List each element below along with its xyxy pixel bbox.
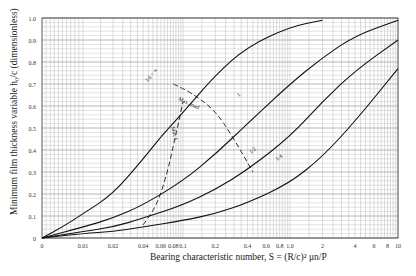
y-axis-label-fraction: h₀/c xyxy=(9,71,19,86)
svg-text:0.2: 0.2 xyxy=(29,192,37,198)
svg-text:10: 10 xyxy=(395,243,401,249)
curve-annotations: l/d = ∞11/21/4Max. loadMin. f xyxy=(144,67,283,162)
svg-text:0.8: 0.8 xyxy=(29,60,37,66)
svg-text:l/d = ∞: l/d = ∞ xyxy=(144,67,159,83)
y-axis-label-main: Minimum film thickness variable xyxy=(9,88,19,215)
y-axis-label: Minimum film thickness variable h₀/c (di… xyxy=(9,35,23,215)
film-thickness-chart: 00.10.20.30.40.50.60.70.80.91.0 00.010.0… xyxy=(0,0,416,276)
svg-text:Max. load: Max. load xyxy=(178,95,201,110)
curves xyxy=(42,20,398,238)
svg-text:1.0: 1.0 xyxy=(29,16,37,22)
svg-text:0.5: 0.5 xyxy=(29,126,37,132)
svg-text:0.04: 0.04 xyxy=(138,243,149,249)
svg-text:6: 6 xyxy=(373,243,376,249)
svg-text:4: 4 xyxy=(354,243,357,249)
svg-text:0.08: 0.08 xyxy=(168,243,179,249)
curve-l-d-1-4 xyxy=(42,69,398,238)
svg-text:0.6: 0.6 xyxy=(263,243,271,249)
svg-text:2: 2 xyxy=(321,243,324,249)
svg-text:0.2: 0.2 xyxy=(211,243,219,249)
svg-text:0.06: 0.06 xyxy=(156,243,167,249)
svg-text:0: 0 xyxy=(33,236,36,242)
svg-text:1/4: 1/4 xyxy=(274,153,283,162)
svg-text:0: 0 xyxy=(41,243,44,249)
svg-text:0.02: 0.02 xyxy=(108,243,119,249)
svg-text:8: 8 xyxy=(386,243,389,249)
x-axis-label: Bearing characteristic number, S = (R/c)… xyxy=(150,252,327,262)
svg-text:0.9: 0.9 xyxy=(29,38,37,44)
svg-text:1.0: 1.0 xyxy=(286,243,294,249)
svg-text:0.4: 0.4 xyxy=(244,243,252,249)
svg-text:0.8: 0.8 xyxy=(276,243,284,249)
svg-text:0.7: 0.7 xyxy=(29,82,37,88)
curve-l-d- xyxy=(42,20,323,238)
svg-text:1: 1 xyxy=(235,91,241,97)
y-axis-label-unit: (dimensionless) xyxy=(9,8,19,68)
curve-l-d-1-2 xyxy=(42,40,398,238)
svg-text:0.4: 0.4 xyxy=(29,148,37,154)
svg-text:1/2: 1/2 xyxy=(248,145,257,154)
svg-text:0.01: 0.01 xyxy=(78,243,89,249)
svg-text:0.1: 0.1 xyxy=(179,243,187,249)
svg-text:0.3: 0.3 xyxy=(29,170,37,176)
y-axis-ticks: 00.10.20.30.40.50.60.70.80.91.0 xyxy=(29,16,37,242)
x-axis-ticks: 00.010.020.040.060.080.10.20.40.60.81.02… xyxy=(41,243,402,249)
svg-text:0.1: 0.1 xyxy=(29,214,37,220)
svg-text:0.6: 0.6 xyxy=(29,104,37,110)
